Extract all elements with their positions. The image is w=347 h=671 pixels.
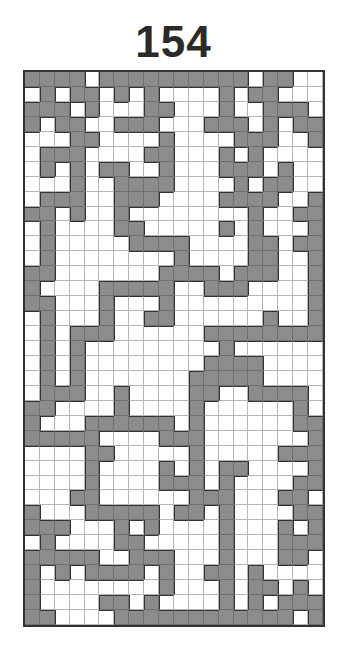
grid-cell[interactable]: [234, 490, 249, 505]
grid-cell[interactable]: [263, 102, 278, 117]
grid-cell[interactable]: [55, 476, 70, 491]
grid-cell[interactable]: [99, 236, 114, 251]
grid-cell[interactable]: [189, 72, 204, 87]
grid-cell[interactable]: [174, 401, 189, 416]
grid-cell[interactable]: [40, 221, 55, 236]
grid-cell[interactable]: [40, 550, 55, 565]
grid-cell[interactable]: [159, 162, 174, 177]
grid-cell[interactable]: [85, 535, 100, 550]
grid-cell[interactable]: [159, 580, 174, 595]
grid-cell[interactable]: [219, 102, 234, 117]
grid-cell[interactable]: [278, 550, 293, 565]
grid-cell[interactable]: [278, 535, 293, 550]
grid-cell[interactable]: [159, 251, 174, 266]
grid-cell[interactable]: [248, 490, 263, 505]
grid-cell[interactable]: [189, 461, 204, 476]
grid-cell[interactable]: [85, 207, 100, 222]
grid-cell[interactable]: [70, 341, 85, 356]
grid-cell[interactable]: [40, 177, 55, 192]
grid-cell[interactable]: [278, 610, 293, 625]
grid-cell[interactable]: [189, 117, 204, 132]
grid-cell[interactable]: [55, 266, 70, 281]
grid-cell[interactable]: [174, 535, 189, 550]
grid-cell[interactable]: [129, 505, 144, 520]
grid-cell[interactable]: [248, 535, 263, 550]
grid-cell[interactable]: [129, 565, 144, 580]
grid-cell[interactable]: [248, 236, 263, 251]
grid-cell[interactable]: [55, 490, 70, 505]
grid-cell[interactable]: [293, 251, 308, 266]
grid-cell[interactable]: [144, 207, 159, 222]
grid-cell[interactable]: [278, 192, 293, 207]
grid-cell[interactable]: [293, 416, 308, 431]
grid-cell[interactable]: [189, 356, 204, 371]
grid-cell[interactable]: [219, 520, 234, 535]
grid-cell[interactable]: [159, 595, 174, 610]
grid-cell[interactable]: [40, 132, 55, 147]
grid-cell[interactable]: [99, 416, 114, 431]
grid-cell[interactable]: [144, 87, 159, 102]
grid-cell[interactable]: [189, 386, 204, 401]
grid-cell[interactable]: [144, 117, 159, 132]
grid-cell[interactable]: [99, 117, 114, 132]
grid-cell[interactable]: [99, 505, 114, 520]
grid-cell[interactable]: [70, 192, 85, 207]
grid-cell[interactable]: [55, 610, 70, 625]
grid-cell[interactable]: [234, 461, 249, 476]
grid-cell[interactable]: [114, 476, 129, 491]
grid-cell[interactable]: [219, 476, 234, 491]
grid-cell[interactable]: [293, 565, 308, 580]
grid-cell[interactable]: [263, 461, 278, 476]
grid-cell[interactable]: [129, 162, 144, 177]
grid-cell[interactable]: [159, 147, 174, 162]
grid-cell[interactable]: [278, 341, 293, 356]
grid-cell[interactable]: [159, 296, 174, 311]
grid-cell[interactable]: [99, 431, 114, 446]
grid-cell[interactable]: [25, 446, 40, 461]
grid-cell[interactable]: [278, 431, 293, 446]
grid-cell[interactable]: [85, 326, 100, 341]
grid-cell[interactable]: [219, 326, 234, 341]
grid-cell[interactable]: [189, 550, 204, 565]
grid-cell[interactable]: [278, 266, 293, 281]
grid-cell[interactable]: [204, 207, 219, 222]
grid-cell[interactable]: [248, 207, 263, 222]
grid-cell[interactable]: [159, 117, 174, 132]
grid-cell[interactable]: [129, 251, 144, 266]
grid-cell[interactable]: [55, 147, 70, 162]
grid-cell[interactable]: [25, 461, 40, 476]
grid-cell[interactable]: [278, 147, 293, 162]
grid-cell[interactable]: [114, 341, 129, 356]
grid-cell[interactable]: [234, 251, 249, 266]
grid-cell[interactable]: [129, 371, 144, 386]
grid-cell[interactable]: [204, 296, 219, 311]
grid-cell[interactable]: [40, 296, 55, 311]
grid-cell[interactable]: [144, 490, 159, 505]
grid-cell[interactable]: [189, 505, 204, 520]
grid-cell[interactable]: [263, 221, 278, 236]
grid-cell[interactable]: [40, 207, 55, 222]
grid-cell[interactable]: [248, 431, 263, 446]
grid-cell[interactable]: [308, 192, 323, 207]
grid-cell[interactable]: [308, 505, 323, 520]
grid-cell[interactable]: [234, 311, 249, 326]
grid-cell[interactable]: [248, 251, 263, 266]
grid-cell[interactable]: [40, 356, 55, 371]
grid-cell[interactable]: [25, 476, 40, 491]
grid-cell[interactable]: [219, 490, 234, 505]
grid-cell[interactable]: [189, 177, 204, 192]
grid-cell[interactable]: [234, 520, 249, 535]
grid-cell[interactable]: [144, 505, 159, 520]
grid-cell[interactable]: [70, 490, 85, 505]
grid-cell[interactable]: [55, 162, 70, 177]
grid-cell[interactable]: [189, 311, 204, 326]
grid-cell[interactable]: [293, 296, 308, 311]
grid-cell[interactable]: [248, 371, 263, 386]
grid-cell[interactable]: [55, 102, 70, 117]
grid-cell[interactable]: [174, 386, 189, 401]
grid-cell[interactable]: [234, 416, 249, 431]
grid-cell[interactable]: [114, 311, 129, 326]
grid-cell[interactable]: [114, 446, 129, 461]
grid-cell[interactable]: [204, 490, 219, 505]
grid-cell[interactable]: [55, 281, 70, 296]
